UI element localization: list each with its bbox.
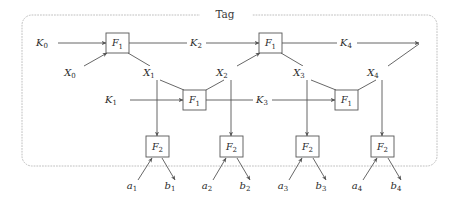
output-label-a4: a4 bbox=[352, 180, 363, 193]
diagram-root: Tag bbox=[0, 0, 459, 202]
wire-a3-to-f2-3 bbox=[289, 158, 302, 180]
output-label-a1-text: a1 bbox=[127, 180, 137, 193]
key-label-k2: K2 bbox=[187, 36, 205, 50]
wire-f2-3-to-b3 bbox=[313, 158, 326, 180]
f2-2: F2 bbox=[220, 136, 243, 157]
f1-top-left: F1 bbox=[106, 33, 129, 53]
wire-f1-top-left-to-x1 bbox=[128, 53, 150, 66]
state-label-x3: X3 bbox=[290, 66, 308, 80]
wire-a2-to-f2-2 bbox=[213, 158, 226, 180]
wire-a4-to-f2-4 bbox=[363, 158, 377, 180]
wire-a1-to-f2-1 bbox=[138, 158, 152, 180]
top-row-diagonal-inputs bbox=[84, 44, 419, 66]
wire-f2-4-to-b4 bbox=[388, 158, 401, 180]
wire-x4-to-tag-output bbox=[388, 44, 419, 66]
key-label-k4: K4 bbox=[337, 36, 355, 50]
key-label-k0: K0 bbox=[33, 36, 51, 50]
output-label-a2: a2 bbox=[202, 180, 212, 193]
f2-4: F2 bbox=[371, 136, 394, 157]
key-label-k3: K3 bbox=[253, 93, 271, 107]
output-label-a3-text: a3 bbox=[278, 180, 288, 193]
tag-generation-diagram: Tag bbox=[0, 0, 459, 202]
f1-mid-left: F1 bbox=[183, 90, 206, 110]
state-label-x4: X4 bbox=[364, 66, 382, 80]
output-label-a4-text: a4 bbox=[352, 180, 363, 193]
wire-x2-to-f1-mid-left bbox=[206, 80, 224, 90]
output-label-b3: b3 bbox=[316, 180, 327, 193]
output-label-b1-text: b1 bbox=[165, 180, 176, 193]
f2-1: F2 bbox=[146, 136, 169, 157]
f2-3: F2 bbox=[296, 136, 319, 157]
wire-x1-to-f1-mid-left bbox=[160, 80, 184, 90]
wire-f2-2-to-b2 bbox=[237, 158, 250, 180]
output-label-b3-text: b3 bbox=[316, 180, 327, 193]
function-boxes-layer: F1F1F1F1F2F2F2F2 bbox=[106, 33, 394, 157]
wire-x0-to-f1-top-left bbox=[84, 53, 107, 66]
output-label-b1: b1 bbox=[165, 180, 176, 193]
f2-output-diagonals bbox=[138, 158, 401, 180]
output-label-a3: a3 bbox=[278, 180, 288, 193]
state-label-x2: X2 bbox=[213, 66, 231, 80]
middle-row-diagonal-inputs bbox=[160, 80, 376, 90]
f1-top-right: F1 bbox=[259, 33, 282, 53]
wire-f1-top-right-to-x3 bbox=[281, 53, 303, 66]
output-label-a1: a1 bbox=[127, 180, 137, 193]
output-label-b4: b4 bbox=[391, 180, 402, 193]
wire-x2-to-f1-top-right bbox=[237, 53, 260, 66]
wire-x4-to-f1-mid-right bbox=[358, 80, 376, 90]
f1-mid-right: F1 bbox=[335, 90, 358, 110]
output-label-b4-text: b4 bbox=[391, 180, 402, 193]
labels-layer: K0K2K4K1K3X0X1X2X3X4a1b1a2b2a3b3a4b4 bbox=[33, 36, 402, 193]
output-label-b2: b2 bbox=[240, 180, 251, 193]
state-label-x0: X0 bbox=[61, 66, 79, 80]
output-label-a2-text: a2 bbox=[202, 180, 212, 193]
state-label-x1: X1 bbox=[140, 66, 158, 80]
key-label-k1: K1 bbox=[102, 93, 120, 107]
wire-x3-to-f1-mid-right bbox=[311, 80, 336, 90]
tag-title: Tag bbox=[215, 8, 234, 20]
output-label-b2-text: b2 bbox=[240, 180, 251, 193]
wire-f2-1-to-b1 bbox=[162, 158, 175, 180]
